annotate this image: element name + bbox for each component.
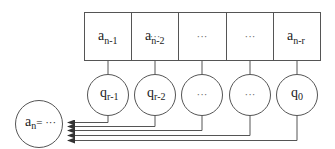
svg-text:···: ··· bbox=[197, 30, 208, 42]
coefficient-node-4: q0 bbox=[277, 75, 318, 116]
recurrence-diagram: an-1 an-2 ··· ··· an-r ··· qr-1 qr-2 ···… bbox=[0, 0, 335, 149]
arrow-from-node-0 bbox=[68, 116, 108, 123]
feedback-arrows bbox=[68, 116, 297, 141]
arrow-from-node-1 bbox=[68, 116, 155, 127]
register-cell-2: ··· bbox=[150, 30, 161, 42]
arrow-from-node-3 bbox=[68, 116, 250, 136]
svg-text:···: ··· bbox=[197, 88, 208, 100]
coefficient-node-2: ··· bbox=[182, 75, 223, 116]
svg-text:···: ··· bbox=[150, 30, 161, 42]
register-cell-3: ··· bbox=[197, 30, 208, 42]
svg-text:an-1: an-1 bbox=[98, 28, 118, 46]
svg-text:an-r: an-r bbox=[287, 28, 306, 46]
coefficient-node-1: qr-2 bbox=[135, 75, 176, 116]
arrow-from-node-4 bbox=[68, 116, 297, 141]
register-cell-ellipsis-extra: ··· bbox=[245, 30, 256, 42]
cell-to-node-connectors bbox=[108, 61, 297, 75]
svg-text:···: ··· bbox=[245, 30, 256, 42]
coefficient-node-0: qr-1 bbox=[88, 75, 129, 116]
register-cell-4: an-r bbox=[287, 28, 306, 46]
register-cell-0: an-1 bbox=[98, 28, 118, 46]
coefficient-node-3: ··· bbox=[230, 75, 271, 116]
result-node: an= ··· bbox=[16, 101, 63, 148]
svg-text:···: ··· bbox=[245, 88, 256, 100]
